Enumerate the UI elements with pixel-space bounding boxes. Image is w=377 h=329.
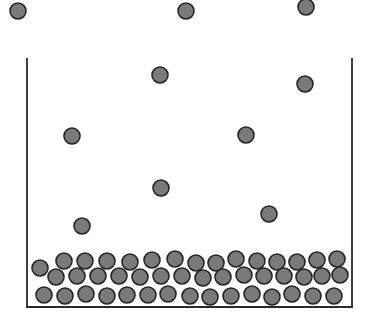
condensed-particle: [284, 286, 300, 302]
condensed-particle: [329, 251, 345, 267]
condensed-particle: [326, 288, 342, 304]
condensed-particle: [215, 269, 231, 285]
condensed-particle: [244, 286, 260, 302]
gas-particle: [178, 3, 194, 19]
condensed-particle: [276, 268, 292, 284]
gas-particle: [297, 76, 313, 92]
condensed-particle: [69, 268, 85, 284]
condensed-particle: [314, 268, 330, 284]
gas-particle: [64, 128, 80, 144]
condensed-particle: [153, 268, 169, 284]
condensed-particle: [90, 268, 106, 284]
condensed-particle: [119, 287, 135, 303]
condensed-particle: [99, 253, 115, 269]
gas-particle: [238, 127, 254, 143]
gas-particle: [74, 218, 90, 234]
condensed-particle: [160, 286, 176, 302]
gas-particle: [10, 3, 26, 19]
condensed-particle: [256, 268, 272, 284]
particle-diagram: [0, 0, 377, 329]
condensed-particles: [32, 251, 348, 305]
gas-particle: [152, 67, 168, 83]
condensed-particle: [48, 269, 64, 285]
condensed-particle: [99, 288, 115, 304]
condensed-particle: [249, 253, 265, 269]
condensed-particle: [202, 289, 218, 305]
condensed-particle: [228, 251, 244, 267]
condensed-particle: [36, 287, 52, 303]
condensed-particle: [77, 253, 93, 269]
condensed-particle: [111, 268, 127, 284]
condensed-particle: [140, 287, 156, 303]
condensed-particle: [305, 288, 321, 304]
diagram-canvas: [0, 0, 377, 329]
condensed-particle: [188, 255, 204, 271]
condensed-particle: [195, 270, 211, 286]
condensed-particle: [57, 288, 73, 304]
condensed-particle: [223, 288, 239, 304]
condensed-particle: [332, 267, 348, 283]
condensed-particle: [78, 286, 94, 302]
gas-particle: [298, 0, 314, 15]
gas-particles: [10, 0, 314, 234]
condensed-particle: [56, 253, 72, 269]
condensed-particle: [182, 288, 198, 304]
condensed-particle: [264, 289, 280, 305]
condensed-particle: [32, 260, 48, 276]
condensed-particle: [174, 268, 190, 284]
gas-particle: [153, 180, 169, 196]
condensed-particle: [289, 254, 305, 270]
condensed-particle: [309, 252, 325, 268]
condensed-particle: [296, 269, 312, 285]
gas-particle: [261, 206, 277, 222]
condensed-particle: [236, 267, 252, 283]
condensed-particle: [132, 269, 148, 285]
condensed-particle: [167, 251, 183, 267]
condensed-particle: [122, 254, 138, 270]
condensed-particle: [144, 252, 160, 268]
